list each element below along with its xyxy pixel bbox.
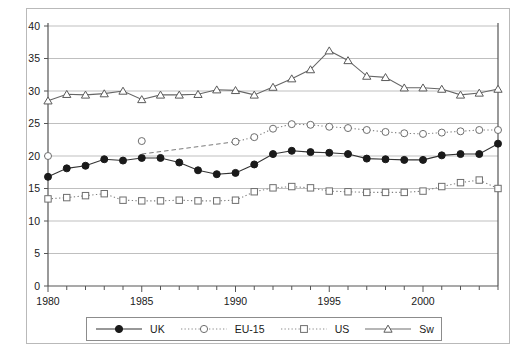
data-point-marker — [157, 154, 164, 161]
data-point-marker — [176, 159, 183, 166]
data-point-marker — [213, 171, 220, 178]
x-axis-tick-label: 1990 — [224, 295, 248, 307]
data-point-marker — [64, 194, 70, 200]
data-point-marker — [495, 185, 501, 191]
data-point-marker — [270, 185, 276, 191]
data-point-marker — [120, 197, 126, 203]
data-point-marker — [363, 127, 370, 134]
data-point-marker — [138, 138, 145, 145]
data-point-marker — [270, 125, 277, 132]
x-axis-tick-label: 1995 — [318, 295, 342, 307]
series-uk — [45, 140, 502, 180]
data-point-marker — [420, 130, 427, 137]
data-point-marker — [45, 196, 51, 202]
legend-item-uk[interactable]: UK — [94, 322, 165, 336]
chart-legend: UK EU-15 US Sw — [86, 317, 442, 341]
x-axis-tick-label: 1980 — [36, 295, 60, 307]
data-point-marker — [195, 198, 201, 204]
data-point-marker — [251, 161, 258, 168]
data-point-marker — [476, 127, 483, 134]
data-point-marker — [439, 183, 445, 189]
data-point-marker — [307, 149, 314, 156]
data-point-marker — [364, 189, 370, 195]
data-point-marker — [251, 134, 258, 141]
data-point-marker — [401, 189, 407, 195]
series-bridge-line — [142, 142, 236, 154]
y-axis-tick-label: 15 — [28, 182, 40, 194]
data-point-marker — [307, 185, 313, 191]
data-point-marker — [345, 151, 352, 158]
data-point-marker — [420, 188, 426, 194]
series-us — [45, 177, 501, 204]
legend-item-us[interactable]: US — [279, 322, 350, 336]
data-point-marker — [420, 156, 427, 163]
y-axis-tick-label: 40 — [28, 20, 40, 32]
data-point-marker — [289, 183, 295, 189]
data-point-marker — [270, 151, 277, 158]
data-point-marker — [438, 152, 445, 159]
data-point-marker — [195, 167, 202, 174]
x-axis-tick-label: 2000 — [411, 295, 435, 307]
x-axis-tick-label: 1985 — [130, 295, 154, 307]
data-point-marker — [326, 188, 332, 194]
y-axis-tick-labels: 0510152025303540 — [28, 20, 40, 292]
data-point-marker — [101, 156, 108, 163]
data-point-marker — [457, 128, 464, 135]
data-point-marker — [382, 189, 388, 195]
data-series-layer — [44, 47, 502, 204]
data-point-marker — [157, 198, 163, 204]
data-point-marker — [269, 83, 277, 90]
data-point-marker — [101, 191, 107, 197]
data-point-marker — [232, 138, 239, 145]
data-point-marker — [401, 156, 408, 163]
data-point-marker — [45, 153, 52, 160]
data-point-marker — [326, 149, 333, 156]
legend-item-eu-15[interactable]: EU-15 — [179, 322, 265, 336]
data-point-marker — [307, 121, 314, 128]
data-point-marker — [494, 85, 502, 92]
data-point-marker — [288, 121, 295, 128]
data-point-marker — [476, 177, 482, 183]
data-point-marker — [476, 151, 483, 158]
data-point-marker — [363, 155, 370, 162]
data-point-marker — [345, 189, 351, 195]
y-axis-tick-label: 35 — [28, 52, 40, 64]
data-point-marker — [251, 189, 257, 195]
legend-label-us: US — [332, 323, 350, 335]
legend-swatch-us — [279, 322, 329, 336]
data-point-marker — [138, 154, 145, 161]
data-point-marker — [457, 179, 463, 185]
chart-page: 0510152025303540 19801985199019952000 UK… — [0, 0, 529, 363]
y-axis-tick-label: 20 — [28, 150, 40, 162]
data-point-marker — [382, 156, 389, 163]
series-sw — [44, 47, 502, 104]
line-chart-plot: 0510152025303540 19801985199019952000 — [0, 0, 529, 363]
data-point-marker — [457, 151, 464, 158]
y-axis-tick-label: 10 — [28, 215, 40, 227]
data-point-marker — [345, 125, 352, 132]
x-axis-ticks — [44, 26, 498, 292]
x-axis-tick-labels: 19801985199019952000 — [36, 295, 435, 307]
data-point-marker — [401, 130, 408, 137]
data-point-marker — [120, 157, 127, 164]
data-point-marker — [326, 123, 333, 130]
data-point-marker — [325, 47, 333, 54]
legend-swatch-uk — [94, 322, 144, 336]
data-point-marker — [382, 128, 389, 135]
data-point-marker — [438, 129, 445, 136]
y-axis-tick-label: 25 — [28, 117, 40, 129]
data-point-marker — [139, 198, 145, 204]
data-point-marker — [214, 198, 220, 204]
legend-item-sw[interactable]: Sw — [363, 322, 434, 336]
data-point-marker — [232, 197, 238, 203]
data-point-marker — [45, 173, 52, 180]
y-axis-tick-label: 30 — [28, 85, 40, 97]
gridlines — [48, 26, 498, 254]
legend-label-uk: UK — [147, 323, 165, 335]
data-point-marker — [82, 192, 88, 198]
data-point-marker — [63, 165, 70, 172]
series-line — [48, 144, 498, 177]
data-point-marker — [82, 162, 89, 169]
y-axis-tick-label: 5 — [34, 247, 40, 259]
data-point-marker — [344, 57, 352, 64]
